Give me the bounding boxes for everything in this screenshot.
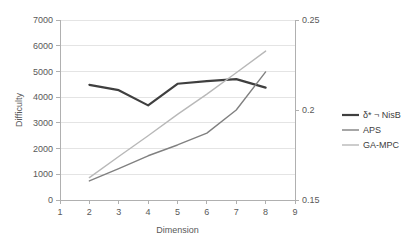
- x-axis-tick-labels: 123456789: [57, 207, 297, 217]
- y-tick-label: 7000: [33, 15, 53, 25]
- y-axis-ticks: [56, 20, 60, 200]
- series-line-0: [89, 79, 265, 105]
- series-line-1: [89, 72, 265, 181]
- y-tick-label: 4000: [33, 92, 53, 102]
- legend-label-0: δ* ¬ NisB: [363, 110, 401, 120]
- secondary-y-tick-label: 0.25: [302, 15, 320, 25]
- y-tick-label: 0: [48, 195, 53, 205]
- legend-item-1[interactable]: APS: [342, 125, 381, 135]
- chart-legend: δ* ¬ NisBAPSGA-MPC: [342, 110, 401, 150]
- x-tick-label: 2: [87, 207, 92, 217]
- x-tick-label: 9: [292, 207, 297, 217]
- y-tick-label: 6000: [33, 41, 53, 51]
- x-tick-label: 5: [175, 207, 180, 217]
- secondary-y-tick-label: 0.2: [302, 105, 315, 115]
- data-series: [89, 51, 265, 181]
- legend-label-1: APS: [363, 125, 381, 135]
- x-axis-ticks: [60, 200, 295, 204]
- y-tick-label: 2000: [33, 144, 53, 154]
- series-line-2: [89, 51, 265, 178]
- line-chart: 123456789 01000200030004000500060007000 …: [0, 0, 413, 245]
- x-tick-label: 8: [263, 207, 268, 217]
- legend-label-2: GA-MPC: [363, 140, 400, 150]
- legend-item-2[interactable]: GA-MPC: [342, 140, 400, 150]
- secondary-y-axis-tick-labels: 0.150.20.25: [302, 15, 320, 205]
- y-tick-label: 3000: [33, 118, 53, 128]
- y-axis-tick-labels: 01000200030004000500060007000: [33, 15, 53, 205]
- y-axis-title: Difficulty: [14, 93, 24, 127]
- legend-item-0[interactable]: δ* ¬ NisB: [342, 110, 401, 120]
- secondary-y-tick-label: 0.15: [302, 195, 320, 205]
- axis-titles: DimensionDifficulty: [14, 93, 199, 235]
- x-tick-label: 3: [116, 207, 121, 217]
- x-tick-label: 6: [204, 207, 209, 217]
- x-axis-title: Dimension: [156, 225, 199, 235]
- secondary-y-axis-ticks: [295, 20, 299, 200]
- x-tick-label: 7: [234, 207, 239, 217]
- y-tick-label: 5000: [33, 67, 53, 77]
- chart-container: 123456789 01000200030004000500060007000 …: [0, 0, 413, 245]
- x-tick-label: 1: [57, 207, 62, 217]
- y-tick-label: 1000: [33, 169, 53, 179]
- x-tick-label: 4: [146, 207, 151, 217]
